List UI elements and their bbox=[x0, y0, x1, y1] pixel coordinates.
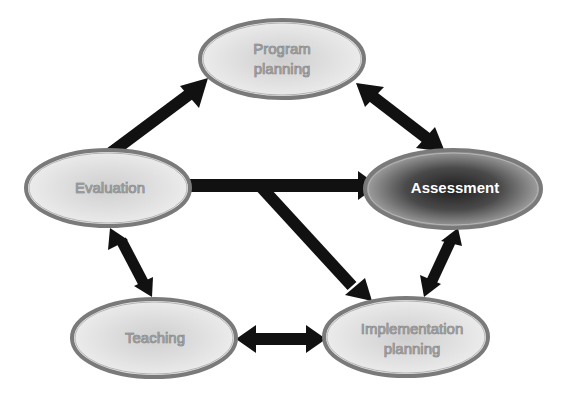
node-teaching: Teaching bbox=[72, 299, 236, 377]
arrow-assessment-implementation-planning bbox=[420, 228, 462, 297]
node-label: Program bbox=[253, 40, 311, 57]
node-label: Teaching bbox=[125, 329, 185, 346]
arrow-evaluation-to-implementation-planning bbox=[262, 188, 372, 301]
node-label: planning bbox=[384, 340, 441, 357]
node-evaluation: Evaluation bbox=[26, 150, 190, 226]
node-label: Implementation bbox=[361, 320, 464, 337]
node-implementation-planning: Implementation planning bbox=[324, 298, 488, 376]
arrow-evaluation-teaching bbox=[108, 228, 153, 297]
node-label: Assessment bbox=[411, 179, 499, 196]
arrow-evaluation-to-program-planning bbox=[103, 78, 208, 159]
node-label: planning bbox=[254, 60, 311, 77]
arrow-program-planning-assessment bbox=[356, 83, 445, 152]
cycle-diagram: Program planning Assessment Evaluation T… bbox=[0, 0, 569, 395]
node-label: Evaluation bbox=[75, 179, 145, 196]
node-assessment: Assessment bbox=[365, 150, 541, 228]
arrow-evaluation-to-assessment bbox=[190, 171, 378, 200]
node-program-planning: Program planning bbox=[200, 20, 364, 98]
arrow-teaching-implementation-planning bbox=[236, 325, 326, 353]
